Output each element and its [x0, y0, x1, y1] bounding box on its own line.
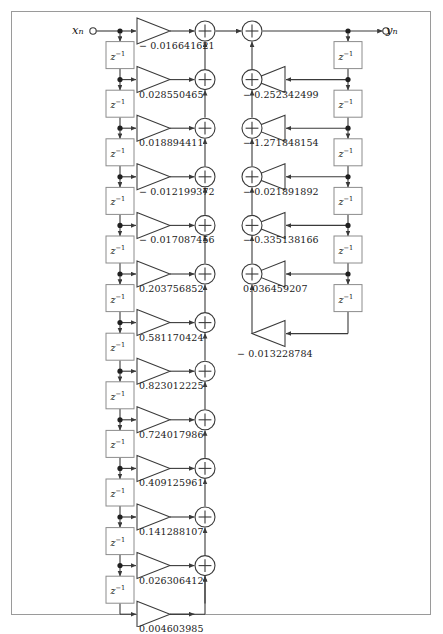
- delay-label-fb-2: z−1: [339, 147, 354, 159]
- delay-exponent: −1: [116, 244, 126, 252]
- adder-fb-4: [242, 264, 262, 284]
- adder-ff-9: [195, 458, 215, 478]
- delay-label-ff-10: z−1: [111, 536, 126, 548]
- delay-exponent: −1: [344, 147, 354, 155]
- adder-ff-8: [195, 410, 215, 430]
- delay-exponent: −1: [116, 147, 126, 155]
- adder-ff-2: [195, 118, 215, 138]
- delay-exponent: −1: [116, 50, 126, 58]
- adder-fb-1: [242, 118, 262, 138]
- delay-exponent: −1: [116, 584, 126, 592]
- coefficient-fb-0: − 0.252342499: [243, 89, 319, 100]
- adder-ff-11: [195, 556, 215, 576]
- adder-fb-top: [242, 21, 262, 41]
- coefficient-ff-1: 0.028550465: [139, 89, 204, 100]
- delay-label-ff-11: z−1: [111, 584, 126, 596]
- delay-label-fb-5: z−1: [339, 293, 354, 305]
- delay-exponent: −1: [116, 98, 126, 106]
- coefficient-ff-9: 0.409125961: [139, 477, 204, 488]
- coefficient-ff-8: 0.724017986: [139, 429, 204, 440]
- adder-ff-4: [195, 215, 215, 235]
- coefficient-ff-6: 0.581170424: [139, 332, 204, 343]
- delay-label-fb-4: z−1: [339, 244, 354, 256]
- delay-exponent: −1: [344, 195, 354, 203]
- coefficient-fb-1: − 1.271848154: [243, 137, 319, 148]
- delay-label-ff-9: z−1: [111, 487, 126, 499]
- coefficient-ff-3: − 0.012199372: [139, 186, 215, 197]
- coefficient-ff-0: − 0.016641621: [139, 40, 215, 51]
- delay-exponent: −1: [116, 341, 126, 349]
- delay-label-ff-0: z−1: [111, 50, 126, 62]
- coefficient-ff-11: 0.026306412: [139, 575, 204, 586]
- adder-fb-2: [242, 167, 262, 187]
- coefficient-ff-5: 0.203756852: [139, 283, 204, 294]
- adder-fb-3: [242, 215, 262, 235]
- adder-ff-6: [195, 313, 215, 333]
- delay-label-fb-3: z−1: [339, 195, 354, 207]
- delay-exponent: −1: [344, 293, 354, 301]
- gain-fb-5: [252, 321, 285, 347]
- adder-ff-0: [195, 21, 215, 41]
- delay-exponent: −1: [116, 195, 126, 203]
- delay-label-ff-3: z−1: [111, 195, 126, 207]
- delay-label-ff-8: z−1: [111, 438, 126, 450]
- coefficient-fb-3: − 0.335138166: [243, 234, 319, 245]
- delay-exponent: −1: [344, 244, 354, 252]
- delay-label-ff-7: z−1: [111, 390, 126, 402]
- delay-label-ff-1: z−1: [111, 98, 126, 110]
- adder-ff-1: [195, 70, 215, 90]
- delay-exponent: −1: [116, 487, 126, 495]
- adder-fb-0: [242, 70, 262, 90]
- coefficient-ff-4: − 0.017087456: [139, 234, 215, 245]
- delay-exponent: −1: [344, 98, 354, 106]
- delay-label-ff-5: z−1: [111, 293, 126, 305]
- coefficient-ff-2: 0.018894411: [139, 137, 204, 148]
- adder-ff-5: [195, 264, 215, 284]
- output-label: yn: [386, 23, 398, 37]
- coefficient-fb-4: 0.036459207: [243, 283, 308, 294]
- delay-label-ff-2: z−1: [111, 147, 126, 159]
- delay-label-ff-6: z−1: [111, 341, 126, 353]
- delay-exponent: −1: [116, 438, 126, 446]
- input-label: xn: [72, 23, 84, 37]
- delay-exponent: −1: [344, 50, 354, 58]
- coefficient-ff-7: 0.823012225: [139, 380, 204, 391]
- adder-ff-3: [195, 167, 215, 187]
- delay-label-ff-4: z−1: [111, 244, 126, 256]
- adder-ff-10: [195, 507, 215, 527]
- delay-exponent: −1: [116, 536, 126, 544]
- delay-exponent: −1: [116, 293, 126, 301]
- coefficient-ff-12: 0.004603985: [139, 623, 204, 634]
- delay-exponent: −1: [116, 390, 126, 398]
- adder-ff-7: [195, 361, 215, 381]
- coefficient-ff-10: 0.141288107: [139, 526, 204, 537]
- delay-label-fb-0: z−1: [339, 50, 354, 62]
- coefficient-fb-2: − 0.021891892: [243, 186, 319, 197]
- delay-label-fb-1: z−1: [339, 98, 354, 110]
- coefficient-fb-5: − 0.013228784: [237, 348, 313, 359]
